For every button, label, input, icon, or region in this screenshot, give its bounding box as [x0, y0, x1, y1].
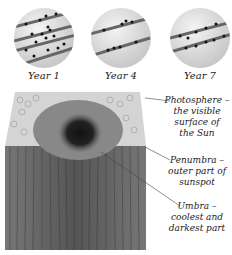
sun-disk-year-4: [90, 8, 151, 68]
sun-disk-year-7: [170, 8, 232, 68]
year-4-label: Year 4: [91, 70, 151, 81]
year-7-label: Year 7: [170, 70, 230, 81]
year-1-label: Year 1: [14, 70, 74, 81]
sunspot-cross-section: [5, 92, 146, 250]
photosphere-callout: Photosphere – the visible surface of the…: [162, 95, 232, 139]
sun-disk-year-1: [10, 8, 80, 68]
penumbra-callout: Penumbra – outer part of sunspot: [162, 155, 232, 188]
umbra-callout: Umbra – coolest and darkest part: [162, 201, 232, 234]
